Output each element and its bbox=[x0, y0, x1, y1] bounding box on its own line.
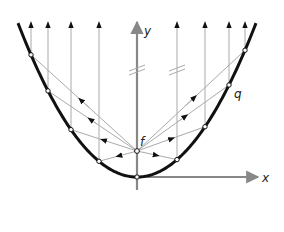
reflection-point bbox=[69, 127, 73, 131]
focal-ray-arrow bbox=[79, 98, 90, 108]
reflection-point bbox=[227, 83, 231, 87]
parabola-reflection-figure: y x f q bbox=[0, 0, 284, 232]
vertex-point bbox=[135, 175, 139, 179]
reflection-point bbox=[175, 157, 179, 161]
axes bbox=[129, 22, 258, 190]
focal-ray-arrow bbox=[88, 118, 97, 124]
reflection-point bbox=[46, 89, 50, 93]
reflection-point bbox=[243, 48, 247, 52]
focal-ray-arrow bbox=[168, 138, 175, 140]
reflection-point bbox=[29, 53, 33, 57]
focal-ray-arrow bbox=[116, 156, 120, 157]
reflection-point bbox=[203, 125, 207, 129]
focal-ray-arrow bbox=[186, 96, 197, 106]
focus-label: f bbox=[140, 135, 146, 149]
reflection-point bbox=[97, 159, 101, 163]
focus-point bbox=[135, 149, 140, 154]
focal-ray-arrow bbox=[101, 139, 108, 141]
parabola-diagram: y x f q bbox=[0, 0, 284, 232]
point-q-label: q bbox=[234, 87, 242, 101]
focal-ray-arrow bbox=[155, 155, 159, 156]
x-axis-label: x bbox=[261, 171, 270, 185]
y-axis-label: y bbox=[143, 24, 152, 38]
focal-ray-arrow bbox=[178, 115, 187, 122]
